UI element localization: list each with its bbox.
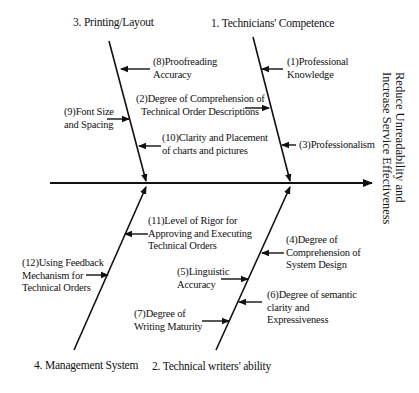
cause-6-line-2: clarity and (267, 302, 357, 315)
category-technical-writers: 2. Technical writers' ability (152, 360, 271, 372)
cause-1-line-1: (1)Professional (287, 56, 348, 69)
cause-1: (1)Professional Knowledge (287, 56, 348, 81)
cause-8-line-2: Accuracy (153, 69, 217, 82)
category-management-system: 4. Management System (34, 359, 138, 371)
cause-10-line-1: (10)Clarity and Placement (162, 132, 268, 145)
cause-11: (11)Level of Rigor for Approving and Exe… (148, 215, 252, 253)
cause-7-line-1: (7)Degree of (134, 308, 202, 321)
cause-4-line-1: (4)Degree of (286, 234, 361, 247)
cause-9-line-2: and Spacing (64, 119, 114, 132)
cause-6-line-1: (6)Degree of semantic (267, 289, 357, 302)
cause-4-line-2: Comprehension of (286, 247, 361, 260)
cause-8: (8)Proofreading Accuracy (153, 56, 217, 81)
cause-3: (3)Professionalism (299, 139, 375, 152)
category-technicians-competence: 1. Technicians' Competence (211, 17, 334, 29)
cause-5: (5)Linguistic Accuracy (177, 266, 229, 291)
cause-3-line-1: (3)Professionalism (299, 139, 375, 152)
cause-10: (10)Clarity and Placement of charts and … (162, 132, 268, 157)
cause-2: (2)Degree of Comprehension of Technical … (136, 93, 265, 118)
cause-12-line-1: (12)Using Feedback (22, 257, 104, 270)
cause-6: (6)Degree of semantic clarity and Expres… (267, 289, 357, 327)
cause-11-line-1: (11)Level of Rigor for (148, 215, 252, 228)
cause-11-line-3: Technical Orders (148, 240, 252, 253)
cause-9-line-1: (9)Font Size (64, 106, 114, 119)
cause-12: (12)Using Feedback Mechanism for Technic… (22, 257, 104, 295)
cause-6-line-3: Expressiveness (267, 314, 357, 327)
cause-8-line-1: (8)Proofreading (153, 56, 217, 69)
effect-label: Reduce Unreadability and Increase Servic… (382, 72, 406, 272)
cause-5-line-1: (5)Linguistic (177, 266, 229, 279)
cause-5-line-2: Accuracy (177, 279, 229, 292)
cause-4: (4)Degree of Comprehension of System Des… (286, 234, 361, 272)
cause-12-line-3: Technical Orders (22, 282, 104, 295)
cause-4-line-3: System Design (286, 259, 361, 272)
cause-7: (7)Degree of Writing Maturity (134, 308, 202, 333)
cause-7-line-2: Writing Maturity (134, 321, 202, 334)
cause-9: (9)Font Size and Spacing (64, 106, 114, 131)
category-printing-layout: 3. Printing/Layout (73, 16, 154, 28)
cause-2-line-1: (2)Degree of Comprehension of (136, 93, 265, 106)
cause-12-line-2: Mechanism for (22, 270, 104, 283)
cause-10-line-2: of charts and pictures (162, 145, 268, 158)
cause-2-line-2: Technical Order Descriptions (136, 106, 265, 119)
effect-line-2: Increase Service Effectiveness (380, 72, 393, 272)
effect-line-1: Reduce Unreadability and (393, 72, 406, 272)
cause-11-line-2: Approving and Executing (148, 228, 252, 241)
cause-1-line-2: Knowledge (287, 69, 348, 82)
